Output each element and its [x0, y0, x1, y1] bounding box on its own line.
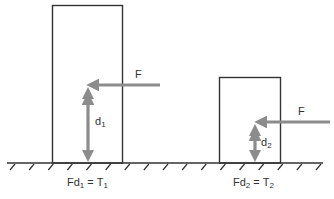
moment-arm-label-1: d1: [95, 116, 106, 129]
equation-label-1: Fd1 = T1: [67, 177, 108, 190]
equation-label-2: Fd2 = T2: [233, 177, 274, 190]
ground-line: [7, 163, 323, 170]
arrowhead-up-2: [249, 124, 261, 136]
moment-arm-label-2: d2: [261, 137, 272, 150]
arrowhead-down-2: [249, 150, 261, 162]
arrowhead-down-1: [82, 150, 94, 162]
force-label-2: F: [298, 106, 305, 117]
arrowhead-up-1: [82, 87, 94, 99]
torque-diagram-canvas: [0, 0, 334, 199]
ground-hatching: [10, 164, 321, 170]
force-label-1: F: [135, 69, 142, 80]
